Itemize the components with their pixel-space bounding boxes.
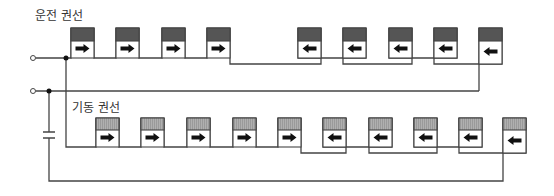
terminal-2-icon	[31, 89, 36, 94]
run-coil	[389, 28, 412, 58]
run-link-wire	[185, 28, 207, 58]
coil-pole-shading	[298, 28, 321, 41]
coil-pole-shading	[278, 118, 301, 130]
coil-pole-shading	[141, 118, 164, 130]
start-winding-label: 기동 권선	[72, 101, 120, 115]
start-winding-coils	[96, 118, 526, 153]
coil-pole-shading	[459, 118, 482, 130]
coil-pole-shading	[323, 118, 346, 130]
start-coil	[414, 118, 437, 147]
start-coil	[141, 118, 164, 147]
coil-pole-shading	[414, 118, 437, 130]
run-coil	[162, 28, 185, 58]
run-winding-label: 운전 권선	[35, 9, 83, 23]
start-coil	[503, 118, 526, 153]
run-coil	[116, 28, 139, 58]
coil-pole-shading	[207, 28, 230, 41]
start-coil	[459, 118, 482, 147]
run-coil	[479, 28, 502, 64]
junction-dot-icon	[47, 89, 52, 94]
coil-pole-shading	[162, 28, 185, 41]
winding-diagram: 운전 권선 기동 권선	[0, 0, 554, 196]
coil-pole-shading	[434, 28, 457, 41]
start-coil	[233, 118, 256, 147]
run-input-wire	[36, 28, 71, 58]
run-coil	[434, 28, 457, 58]
run-coil	[298, 28, 321, 58]
run-link-wire	[139, 28, 162, 58]
start-link-wire	[256, 118, 278, 147]
start-coil	[187, 118, 210, 147]
run-coil	[71, 28, 94, 58]
coil-pole-shading	[71, 28, 94, 41]
junction-dot-icon	[64, 56, 69, 61]
start-link-wire	[164, 118, 187, 147]
run-link-wire	[94, 28, 116, 58]
start-link-wire	[119, 118, 141, 147]
run-coil	[207, 28, 230, 58]
start-coil	[323, 118, 346, 147]
start-link-wire	[210, 118, 233, 147]
coil-pole-shading	[343, 28, 366, 41]
terminal-1-icon	[31, 56, 36, 61]
run-coil	[343, 28, 366, 58]
coil-pole-shading	[187, 118, 210, 130]
coil-pole-shading	[96, 118, 119, 130]
coil-pole-shading	[389, 28, 412, 41]
coil-pole-shading	[116, 28, 139, 41]
start-coil	[278, 118, 301, 147]
coil-pole-shading	[503, 118, 526, 130]
coil-pole-shading	[479, 28, 502, 41]
coil-pole-shading	[233, 118, 256, 130]
start-coil	[96, 118, 119, 147]
start-coil	[369, 118, 392, 147]
coil-pole-shading	[369, 118, 392, 130]
